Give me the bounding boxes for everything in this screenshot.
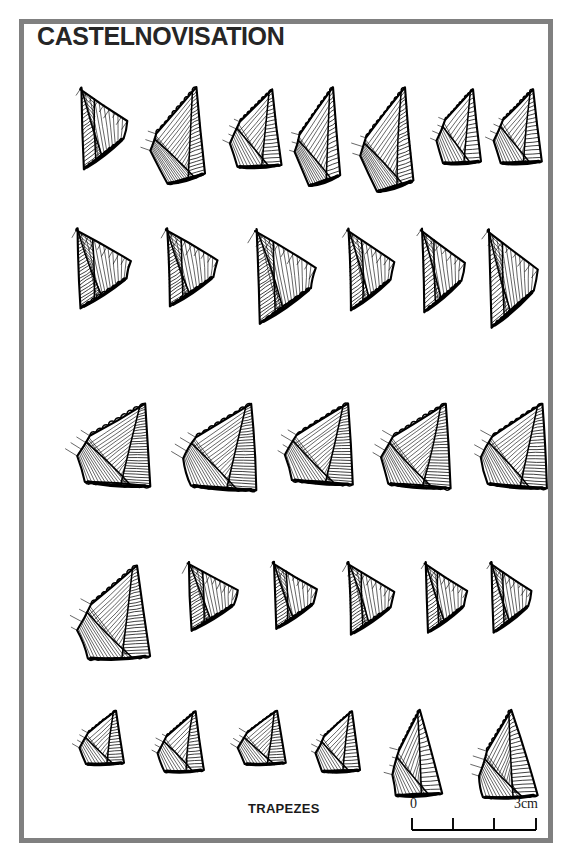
artifact-4-2 bbox=[176, 554, 252, 638]
row-4 bbox=[24, 554, 548, 674]
artifact-5-2 bbox=[150, 702, 212, 782]
artifact-2-6 bbox=[476, 220, 552, 336]
artifact-1-4 bbox=[286, 79, 356, 195]
artifact-2-3 bbox=[242, 220, 332, 332]
artifact-4-5 bbox=[414, 554, 480, 640]
artifact-4-1 bbox=[68, 554, 160, 672]
artifact-1-2 bbox=[141, 79, 223, 193]
artifact-1-7 bbox=[486, 79, 550, 175]
artifact-5-1 bbox=[72, 702, 132, 774]
artifact-3-5 bbox=[472, 394, 558, 498]
artifact-grid bbox=[24, 24, 548, 838]
artifact-4-3 bbox=[262, 554, 330, 636]
figure-caption: TRAPEZES bbox=[248, 801, 320, 816]
row-1 bbox=[24, 79, 548, 203]
artifact-5-6 bbox=[470, 702, 546, 808]
row-3 bbox=[24, 394, 548, 502]
artifact-2-2 bbox=[154, 220, 232, 314]
artifact-5-5 bbox=[384, 702, 450, 806]
artifact-3-1 bbox=[68, 394, 162, 496]
artifact-3-3 bbox=[276, 394, 364, 494]
artifact-1-3 bbox=[222, 79, 290, 179]
artifact-2-1 bbox=[64, 220, 146, 316]
scale-bar: 0 3cm bbox=[410, 796, 538, 840]
artifact-1-6 bbox=[429, 79, 489, 175]
artifact-3-2 bbox=[174, 394, 268, 500]
artifact-2-4 bbox=[336, 220, 408, 318]
scale-max-label: 3cm bbox=[514, 796, 538, 812]
artifact-5-3 bbox=[230, 702, 294, 774]
artifact-4-4 bbox=[336, 554, 408, 642]
artifact-4-6 bbox=[480, 554, 544, 640]
row-2 bbox=[24, 220, 548, 338]
artifact-1-5 bbox=[351, 79, 431, 201]
artifact-2-5 bbox=[410, 220, 478, 320]
scale-bar-graphic bbox=[410, 814, 538, 840]
artifact-3-4 bbox=[372, 394, 462, 498]
row-5 bbox=[24, 702, 548, 810]
illustration-plate: CASTELNOVISATION TRAPEZES 0 3cm bbox=[0, 0, 574, 863]
scale-min-label: 0 bbox=[410, 796, 417, 812]
artifact-1-1 bbox=[69, 79, 141, 177]
artifact-5-4 bbox=[308, 702, 368, 782]
